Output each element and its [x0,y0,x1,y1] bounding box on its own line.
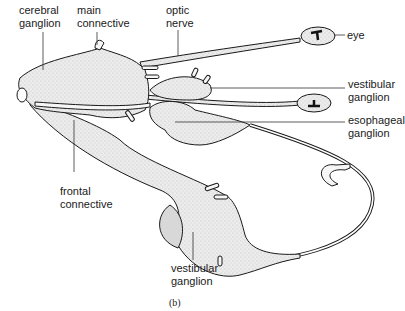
label-line: frontal [60,185,113,198]
label-line: ganglion [171,275,218,288]
label-line: eye [347,29,365,42]
label-line: nerve [166,17,194,30]
label-line: ganglion [348,91,395,104]
label-line: optic [166,4,194,17]
label-line: ganglion [19,17,61,30]
label-line: vestibular [348,78,395,91]
loop-branch [321,164,350,186]
label-line: ganglion [348,127,405,140]
label-line: connective [60,198,113,211]
label-optic-nerve: optic nerve [166,4,194,29]
label-line: main [77,4,130,17]
label-eye: eye [347,29,365,42]
label-vestibular-ganglion-bottom: vestibular ganglion [171,262,218,287]
label-cerebral-ganglion: cerebral ganglion [19,4,61,29]
label-frontal-connective: frontal connective [60,185,113,210]
figure-caption: (b) [169,297,181,308]
loop-connective [232,125,373,262]
optic-nerve [140,38,300,68]
label-line: connective [77,17,130,30]
label-line: esophageal [348,114,405,127]
label-line: cerebral [19,4,61,17]
label-line: vestibular [171,262,218,275]
label-main-connective: main connective [77,4,130,29]
esophageal-ganglion [150,101,250,145]
label-vestibular-ganglion-right: vestibular ganglion [348,78,395,103]
vestibular-ganglion-upper [150,77,211,100]
label-esophageal-ganglion: esophageal ganglion [348,114,405,139]
